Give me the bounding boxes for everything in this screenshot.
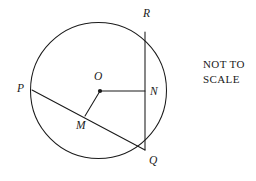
geometry-figure: R N Q P O M NOT TO SCALE [0,0,256,181]
point-label-q: Q [149,155,157,167]
point-label-o: O [94,71,102,83]
not-to-scale-note: NOT TO SCALE [203,57,245,87]
segment-o-m [85,91,100,116]
point-label-n: N [150,86,158,98]
point-label-r: R [143,8,150,20]
note-line-1: NOT TO [203,57,245,72]
point-label-m: M [76,120,86,132]
segment-p-q-chord [32,90,145,150]
centre-point-dot [98,89,102,93]
point-label-p: P [17,83,24,95]
note-line-2: SCALE [203,72,245,87]
geometry-canvas [0,0,256,181]
